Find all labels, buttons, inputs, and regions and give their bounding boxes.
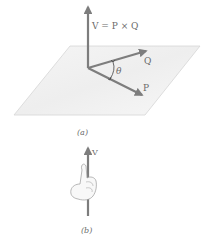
caption-a: (a) bbox=[77, 128, 88, 137]
vector-p-label: P bbox=[143, 83, 149, 93]
caption-b: (b) bbox=[81, 226, 92, 235]
plane bbox=[14, 46, 200, 115]
figure-b: V (b) bbox=[71, 148, 98, 235]
vector-q-label: Q bbox=[144, 56, 151, 66]
angle-label: θ bbox=[116, 66, 122, 76]
vector-v-label: V = P × Q bbox=[91, 21, 138, 31]
right-hand-icon bbox=[71, 164, 97, 200]
vector-v-label-b: V bbox=[91, 148, 98, 157]
cross-product-diagram: V = P × Q Q P θ (a) V (b) bbox=[0, 0, 213, 240]
figure-a: V = P × Q Q P θ (a) bbox=[14, 7, 200, 137]
